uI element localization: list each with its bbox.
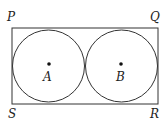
center-point-b <box>119 62 123 66</box>
label-q: Q <box>150 10 160 24</box>
center-point-a <box>47 62 51 66</box>
label-s: S <box>8 107 16 121</box>
label-b: B <box>115 70 125 84</box>
label-r: R <box>149 107 159 121</box>
circle-a <box>13 30 85 102</box>
geometry-diagram: P Q R S A B <box>0 0 167 121</box>
circle-b <box>86 30 158 102</box>
label-p: P <box>6 10 16 24</box>
label-a: A <box>42 70 52 84</box>
